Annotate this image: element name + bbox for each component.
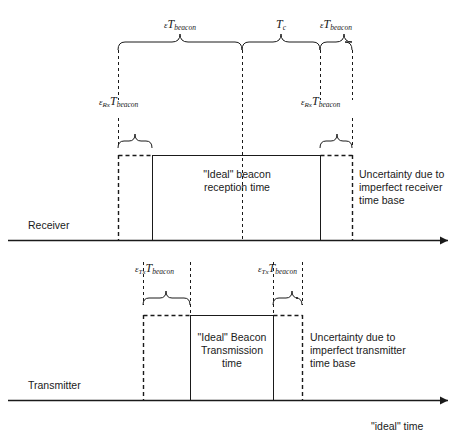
transmitter-axis-label: Transmitter (28, 379, 81, 391)
transmitter-eps-label-left: εTxTbeacon (135, 262, 174, 278)
receiver-guide-lines-lower (119, 118, 353, 148)
transmitter-inner-text: "Ideal" Beacon Transmission time (186, 331, 278, 370)
receiver-small-brace-left (118, 134, 152, 148)
top-brace-1 (118, 34, 242, 50)
receiver-axis (8, 237, 448, 245)
top-brace-3 (320, 34, 352, 50)
receiver-axis-label: Receiver (28, 219, 69, 231)
receiver-eps-label-right: εRxTbeacon (301, 95, 340, 111)
top-brace-2 (242, 34, 320, 50)
transmitter-eps-label-right: εTxTbeacon (258, 262, 297, 278)
transmitter-uncertainty-text: Uncertainty due to imperfect transmitter… (310, 331, 460, 370)
receiver-uncertainty-text: Uncertainty due to imperfect receiver ti… (359, 168, 463, 207)
receiver-eps-label-left: εRxTbeacon (99, 95, 138, 111)
timing-diagram: εTbeacon Tc εTbeacon εRxTbeacon εRxTbeac… (0, 0, 463, 444)
ideal-time-label: "ideal" time (371, 420, 423, 432)
diagram-lines (0, 0, 463, 444)
transmitter-axis (8, 397, 448, 405)
transmitter-small-brace-left (143, 291, 190, 305)
transmitter-small-brace-right (273, 291, 302, 305)
receiver-guide-lines (119, 50, 353, 240)
receiver-inner-text: "Ideal" beacon reception time (181, 168, 293, 194)
top-brace-label-3: εTbeacon (296, 18, 376, 34)
receiver-small-brace-right (320, 134, 352, 148)
top-brace-label-1: εTbeacon (140, 18, 220, 34)
